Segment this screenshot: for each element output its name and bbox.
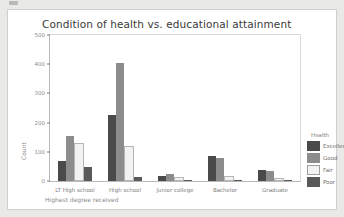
x-axis-tick-label: LT High school [55,187,94,193]
legend-label: Fair [323,167,333,173]
image-artifact-mark [9,1,18,5]
x-axis-tick-label: Bachelor [213,187,237,193]
legend-swatch [307,177,320,187]
x-axis-tick-label: Junior college [156,187,193,193]
legend-swatch [307,165,320,175]
chart-card: Condition of health vs. educational atta… [7,9,337,210]
legend-label: Poor [323,179,335,185]
legend: Health ExcellentGoodFairPoor [307,132,344,189]
x-axis-tick-label: Graduate [262,187,288,193]
plot-area: 0100200300400500 LT High schoolHigh scho… [49,34,301,182]
screenshot-root: Condition of health vs. educational atta… [0,0,344,217]
legend-items: ExcellentGoodFairPoor [307,141,344,187]
y-axis-tick-label: 200 [35,120,51,126]
y-axis-tick-label: 500 [35,32,51,38]
legend-item-poor[interactable]: Poor [307,177,344,187]
y-axis-tick-label: 0 [42,178,51,184]
chart-title: Condition of health vs. educational atta… [42,18,291,30]
legend-title: Health [311,132,344,138]
y-axis-tick-label: 100 [35,149,51,155]
legend-label: Good [323,155,337,161]
legend-swatch [307,141,320,151]
y-axis-title: Count [20,142,27,160]
legend-item-fair[interactable]: Fair [307,165,344,175]
legend-swatch [307,153,320,163]
x-axis-tick-label: High school [109,187,141,193]
legend-item-good[interactable]: Good [307,153,344,163]
y-axis-tick-label: 300 [35,90,51,96]
legend-item-excellent[interactable]: Excellent [307,141,344,151]
y-axis-tick-label: 400 [35,61,51,67]
legend-label: Excellent [323,143,344,149]
x-axis-tick-labels: LT High schoolHigh schoolJunior collegeB… [50,35,300,181]
x-axis-title: Highest degree received [45,196,119,203]
